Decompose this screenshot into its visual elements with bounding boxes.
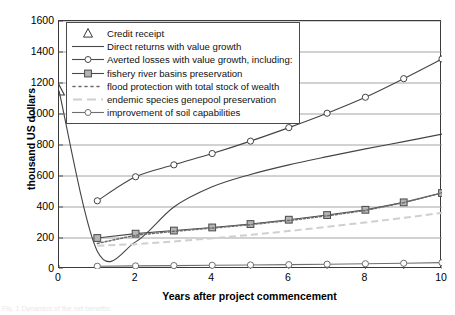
legend-label: flood protection with total stock of wea… xyxy=(105,81,279,92)
y-tick-label: 200 xyxy=(0,231,54,243)
legend-marker-icon xyxy=(71,40,105,53)
legend-marker-icon xyxy=(71,106,105,119)
legend-item[interactable]: flood protection with total stock of wea… xyxy=(71,80,292,93)
x-tick-label: 2 xyxy=(115,271,155,283)
legend-label: endemic species genepool preservation xyxy=(105,94,276,105)
x-axis-title: Years after project commencement xyxy=(58,290,441,302)
y-tick-label: 800 xyxy=(0,138,54,150)
series-line xyxy=(94,260,442,269)
legend-label: fishery river basins preservation xyxy=(105,68,242,79)
y-tick-label: 1200 xyxy=(0,76,54,88)
legend-label: improvement of soil capabilities xyxy=(105,107,240,118)
x-tick-label: 10 xyxy=(421,271,455,283)
chart-legend: Credit receiptDirect returns with value … xyxy=(66,22,300,124)
figure-container: thousand US dollars 02004006008001000120… xyxy=(0,0,455,315)
legend-label: Averted losses with value growth, includ… xyxy=(105,54,292,65)
x-tick-label: 6 xyxy=(268,271,308,283)
x-tick-label: 0 xyxy=(38,271,78,283)
y-tick-label: 1400 xyxy=(0,45,54,57)
y-tick-label: 1000 xyxy=(0,107,54,119)
y-tick-label: 400 xyxy=(0,200,54,212)
legend-item[interactable]: fishery river basins preservation xyxy=(71,67,292,80)
y-tick-label: 600 xyxy=(0,169,54,181)
legend-item[interactable]: improvement of soil capabilities xyxy=(71,106,292,119)
legend-label: Credit receipt xyxy=(105,28,164,39)
legend-item[interactable]: Averted losses with value growth, includ… xyxy=(71,53,292,66)
legend-marker-icon xyxy=(71,53,105,66)
legend-marker-icon xyxy=(71,80,105,93)
legend-marker-icon xyxy=(71,93,105,106)
series-line xyxy=(97,193,442,244)
legend-marker-icon xyxy=(71,67,105,80)
legend-marker-icon xyxy=(71,27,105,40)
figure-caption: Fig. 1 Dynamics of the net benefits xyxy=(2,305,262,312)
y-tick-label: 1600 xyxy=(0,14,54,26)
x-tick-label: 8 xyxy=(344,271,384,283)
legend-item[interactable]: Credit receipt xyxy=(71,27,292,40)
legend-item[interactable]: Direct returns with value growth xyxy=(71,40,292,53)
x-tick-label: 4 xyxy=(191,271,231,283)
legend-label: Direct returns with value growth xyxy=(105,41,241,52)
series-line xyxy=(97,213,442,246)
legend-item[interactable]: endemic species genepool preservation xyxy=(71,93,292,106)
